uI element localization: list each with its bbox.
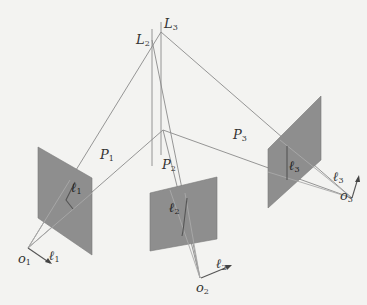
label-L2: L2: [136, 33, 150, 48]
diagram-canvas: L2 L3 P1 P2 P3 ℓ1 ℓ2 ℓ3 ℓ1 ℓ2 ℓ3 o1 o2 o…: [0, 0, 367, 305]
label-o2: o2: [196, 281, 209, 296]
label-ell2-plane: ℓ2: [169, 201, 180, 216]
label-o3: o3: [340, 189, 353, 204]
ray-o3-to-apex: [161, 32, 352, 198]
label-ell3-plane: ℓ3: [289, 159, 300, 174]
label-o1: o1: [18, 252, 31, 267]
label-P3: P3: [233, 128, 247, 143]
label-P2: P2: [162, 158, 176, 173]
image-plane-1: [38, 147, 92, 255]
label-ell1-axis: ℓ1: [49, 249, 60, 264]
image-plane-2: [150, 177, 217, 251]
label-ell3-axis: ℓ3: [333, 170, 344, 185]
label-ell1-plane: ℓ1: [71, 181, 82, 196]
arrowhead-o3: [355, 175, 360, 182]
label-P1: P1: [100, 148, 114, 163]
label-L3: L3: [164, 17, 178, 32]
label-ell2-axis: ℓ2: [216, 257, 227, 272]
